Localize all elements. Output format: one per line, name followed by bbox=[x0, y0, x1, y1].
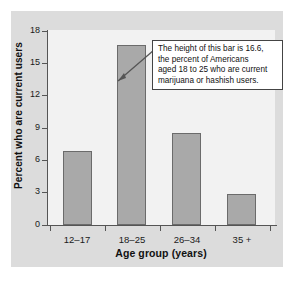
annotation-callout: The height of this bar is 16.6, the perc… bbox=[152, 40, 283, 90]
x-tick-3 bbox=[215, 226, 216, 231]
bar-18-25 bbox=[117, 45, 146, 225]
x-tick-0 bbox=[50, 226, 51, 231]
y-tick-label-0: 0 bbox=[14, 220, 40, 229]
y-tick-6 bbox=[42, 160, 47, 161]
chart-figure: 0 3 6 9 12 15 18 12–17 18–25 26–34 35 + … bbox=[0, 0, 295, 281]
x-tick-label-18-25: 18–25 bbox=[104, 234, 160, 245]
callout-line-1: The height of this bar is 16.6, bbox=[158, 44, 278, 55]
x-tick-2 bbox=[160, 226, 161, 231]
callout-line-3: aged 18 to 25 who are current bbox=[158, 65, 278, 76]
x-tick-label-26-34: 26–34 bbox=[159, 234, 215, 245]
bar-26-34 bbox=[172, 133, 201, 225]
x-tick-label-12-17: 12–17 bbox=[49, 234, 105, 245]
y-tick-label-18: 18 bbox=[14, 26, 40, 35]
y-axis-line bbox=[47, 30, 48, 226]
callout-line-4: marijuana or hashish users. bbox=[158, 76, 278, 87]
bar-35-plus bbox=[227, 194, 256, 225]
x-axis-line bbox=[47, 225, 277, 226]
y-tick-18 bbox=[42, 31, 47, 32]
x-axis-title: Age group (years) bbox=[47, 247, 275, 259]
y-tick-12 bbox=[42, 95, 47, 96]
y-tick-9 bbox=[42, 128, 47, 129]
y-tick-3 bbox=[42, 192, 47, 193]
y-tick-0 bbox=[42, 225, 47, 226]
bar-12-17 bbox=[63, 151, 92, 225]
x-tick-1 bbox=[105, 226, 106, 231]
callout-line-2: the percent of Americans bbox=[158, 55, 278, 66]
x-tick-label-35-plus: 35 + bbox=[214, 234, 270, 245]
x-tick-4 bbox=[270, 226, 271, 231]
y-tick-15 bbox=[42, 63, 47, 64]
y-axis-title: Percent who are current users bbox=[13, 36, 24, 196]
